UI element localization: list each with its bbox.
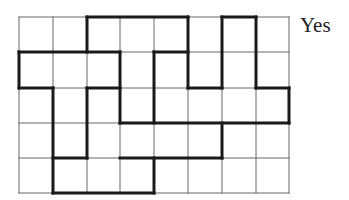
answer-label: Yes	[300, 13, 331, 38]
grid-diagram	[0, 0, 349, 200]
